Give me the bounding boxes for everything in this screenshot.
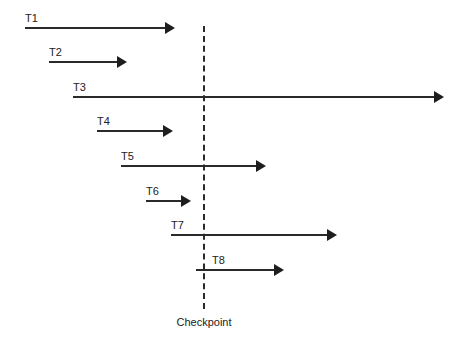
transaction-label: T1: [25, 13, 38, 24]
transaction-label: T8: [212, 255, 225, 266]
arrowhead-icon: [434, 91, 444, 103]
transaction-line: [25, 27, 166, 29]
checkpoint-label: Checkpoint: [176, 316, 231, 328]
transaction-label: T7: [171, 220, 184, 231]
transaction-label: T4: [97, 116, 110, 127]
transaction-label: T6: [146, 186, 159, 197]
arrowhead-icon: [256, 160, 266, 172]
arrowhead-icon: [165, 22, 175, 34]
arrowhead-icon: [117, 56, 127, 68]
transaction-label: T3: [73, 82, 86, 93]
transaction-label: T2: [49, 47, 62, 58]
transaction-line: [49, 61, 118, 63]
arrowhead-icon: [163, 125, 173, 137]
transaction-line: [121, 165, 257, 167]
arrowhead-icon: [181, 195, 191, 207]
transaction-line: [196, 269, 275, 271]
checkpoint-timeline-diagram: T1T2T3T4T5T6T7T8Checkpoint: [0, 0, 464, 346]
arrowhead-icon: [327, 229, 337, 241]
transaction-line: [146, 200, 182, 202]
transaction-label: T5: [121, 151, 134, 162]
transaction-line: [73, 96, 435, 98]
arrowhead-icon: [274, 264, 284, 276]
checkpoint-dashed-line: [203, 26, 205, 309]
transaction-line: [171, 234, 328, 236]
transaction-line: [97, 130, 164, 132]
